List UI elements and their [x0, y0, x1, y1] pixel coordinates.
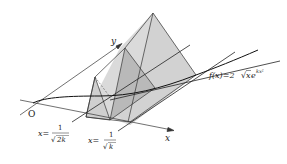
svg-text:1: 1 [58, 124, 62, 132]
x-axis-arrow-icon [167, 128, 174, 132]
cut-label-2: x= 1 √ k [88, 131, 116, 151]
svg-text:x=: x= [38, 129, 49, 138]
y-axis-label: y [110, 36, 117, 46]
sqrt-symbol-icon: √ [103, 143, 108, 151]
solid-of-revolution-diagram: O x y f(x)=2 √ x e kx² x= 1 √ 2k x= 1 √ … [0, 0, 287, 164]
sqrt-symbol-icon: √ [51, 136, 56, 144]
x-axis-label: x [165, 133, 170, 143]
origin-label: O [28, 109, 35, 119]
svg-text:k: k [109, 143, 113, 151]
svg-text:2k: 2k [56, 136, 66, 144]
svg-text:x=: x= [88, 136, 99, 145]
cut-label-1: x= 1 √ 2k [38, 124, 69, 144]
svg-text:1: 1 [109, 131, 113, 139]
svg-text:f(x)=2: f(x)=2 [208, 71, 235, 80]
svg-text:kx²: kx² [256, 68, 264, 74]
function-label: f(x)=2 √ x e kx² [208, 68, 264, 80]
